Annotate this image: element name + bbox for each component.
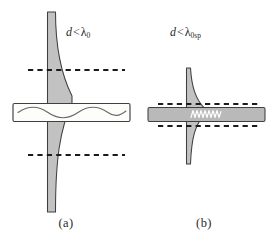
panel-b-condition-label: d<λ0sp: [170, 25, 201, 40]
panel-a-caption: (a): [44, 216, 88, 231]
panel-a-condition-label: d<λ0: [66, 25, 90, 40]
panel-b-caption: (b): [182, 216, 226, 231]
figure-canvas: [0, 0, 270, 242]
panel-a-condition-relation: <: [72, 25, 81, 39]
figure-root: d<λ0 d<λ0sp (a) (b): [0, 0, 270, 242]
panel-a-waveguide-slab: [13, 104, 130, 122]
panel-a-condition-subscript: 0: [87, 31, 91, 40]
panel-b-condition-subscript: 0sp: [191, 31, 201, 40]
panel-b-condition-relation: <: [176, 25, 185, 39]
